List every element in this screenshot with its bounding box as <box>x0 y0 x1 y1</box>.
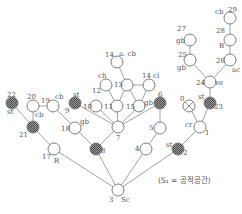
node-22: 22st <box>6 91 18 116</box>
node-28: 28B <box>216 27 236 50</box>
node-number: 12 <box>92 87 101 95</box>
open-node-circle <box>184 34 196 46</box>
node-24: 24ve <box>196 76 223 88</box>
node-number: 29 <box>228 6 237 14</box>
edge-4-3 <box>118 149 146 190</box>
open-node-circle <box>140 143 152 155</box>
node-number: 13 <box>114 81 123 89</box>
node-23: 23st <box>198 93 223 111</box>
node-number: 22 <box>7 91 16 99</box>
open-node-circle <box>100 79 112 91</box>
node-21: 21 <box>19 121 39 139</box>
node-tag: cr <box>185 121 193 129</box>
node-15: 15gb <box>126 99 153 112</box>
node-19: 19cb <box>41 93 64 112</box>
node-tag: B <box>219 42 224 50</box>
node-number: 14 <box>105 51 114 59</box>
node-1: 1cr <box>185 121 209 137</box>
node-tag: B <box>54 157 59 165</box>
node-number: 19 <box>41 97 50 105</box>
node-25: 25gb <box>177 51 196 72</box>
node-13: 13 <box>114 79 133 91</box>
node-tag: gb <box>176 37 185 45</box>
node-number: 25 <box>178 51 187 59</box>
node-number: 24 <box>196 79 205 87</box>
open-node-circle <box>224 34 236 46</box>
node-29: 29cb <box>215 6 237 24</box>
edge-3-17 <box>54 149 118 190</box>
node-5: 5 <box>149 122 166 134</box>
node-tag: ac <box>232 66 240 74</box>
open-node-circle <box>143 79 155 91</box>
node-tag: gb <box>177 64 186 72</box>
node-number: 5 <box>149 124 153 132</box>
node-number: 14 <box>142 72 151 80</box>
node-10: 10 <box>83 100 102 112</box>
node-number: 23 <box>214 103 223 111</box>
open-node-circle <box>224 54 236 66</box>
node-number: 2 <box>183 149 187 157</box>
node-6: 6 <box>154 91 166 109</box>
node-number: 27 <box>177 25 186 33</box>
node-number: 3 <box>109 196 113 204</box>
node-number: 11 <box>104 103 113 111</box>
caption: (S₁ = 공적공간) <box>158 175 211 185</box>
edge-3-8 <box>96 149 118 190</box>
node-tag: cb <box>55 93 64 101</box>
open-node-circle <box>154 122 166 134</box>
node-tag: ch <box>98 72 107 80</box>
node-17: 17B <box>42 143 60 165</box>
nodes: 3Sc17B2122st20cb19cb18gb9st87101112ch131… <box>6 6 240 204</box>
node-number: 7 <box>116 134 120 142</box>
node-tag: cb <box>35 111 44 119</box>
node-tag: cl <box>153 72 160 80</box>
hatched-node-circle <box>27 121 39 133</box>
node-tag: a. cb <box>119 50 137 58</box>
node-tag: gb <box>144 99 153 107</box>
node-number: 0 <box>180 95 184 103</box>
node-tag: Sc <box>121 196 130 204</box>
node-number: 15 <box>126 103 135 111</box>
node-tag: ve <box>214 79 223 87</box>
node-tag: gb <box>80 118 89 126</box>
node-4: 4 <box>135 143 152 155</box>
node-number: 1 <box>205 129 209 137</box>
node-tag: cb <box>215 8 224 16</box>
node-18: 18gb <box>61 118 89 134</box>
node-number: 4 <box>135 145 140 153</box>
node-0: 0 <box>180 95 195 112</box>
node-number: 8 <box>101 147 105 155</box>
node-14a: 14a. cb <box>105 50 137 68</box>
node-number: 26 <box>216 57 225 65</box>
node-tag: st <box>166 141 173 149</box>
node-number: 20 <box>27 93 36 101</box>
node-number: 6 <box>158 91 163 99</box>
node-tag: st <box>7 108 14 116</box>
node-27: 27gb <box>176 25 196 46</box>
node-number: 18 <box>61 125 70 133</box>
open-node-circle <box>112 121 124 133</box>
node-8: 8 <box>90 143 105 155</box>
space-syntax-graph: 3Sc17B2122st20cb19cb18gb9st87101112ch131… <box>0 0 242 214</box>
graph-svg: 3Sc17B2122st20cb19cb18gb9st87101112ch131… <box>0 0 242 214</box>
node-tag: st <box>73 91 80 99</box>
open-node-circle <box>112 184 124 196</box>
node-9: 9st <box>65 91 81 115</box>
node-11: 11 <box>104 100 123 112</box>
node-number: 17 <box>42 153 51 161</box>
node-number: 28 <box>216 27 225 35</box>
node-14b: 14cl <box>142 72 160 91</box>
node-tag: st <box>198 93 205 101</box>
node-number: 10 <box>83 103 92 111</box>
node-number: 9 <box>65 107 69 115</box>
node-number: 21 <box>19 131 28 139</box>
node-7: 7 <box>112 121 124 142</box>
node-3: 3Sc <box>109 184 130 204</box>
